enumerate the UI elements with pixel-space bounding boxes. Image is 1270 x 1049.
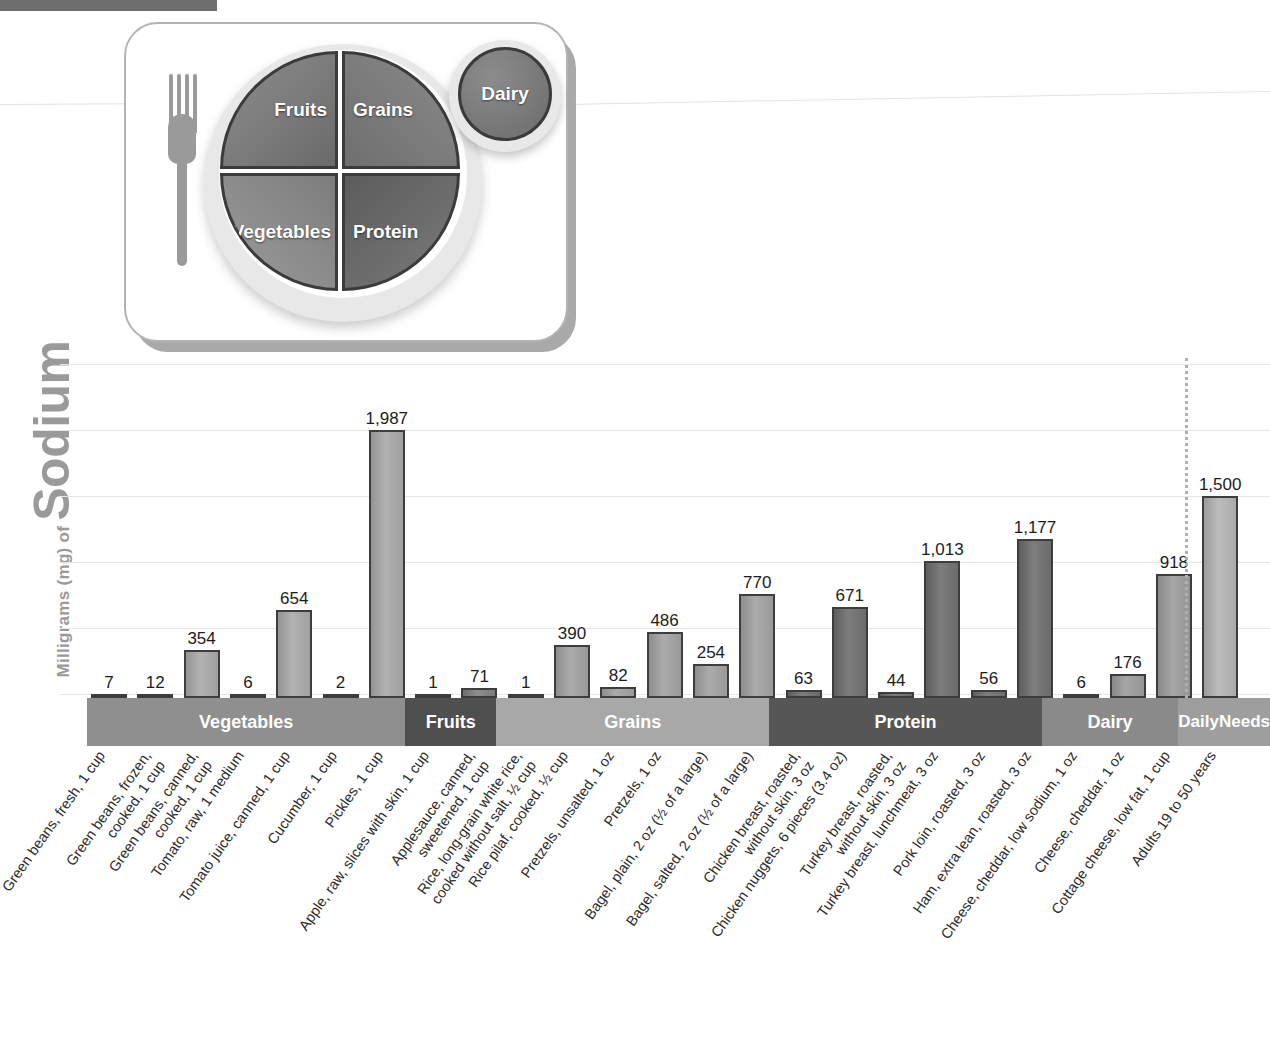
category-band-protein: Protein bbox=[769, 698, 1042, 746]
bar[interactable] bbox=[971, 690, 1007, 698]
category-band-dairy: Dairy bbox=[1042, 698, 1178, 746]
myplate-label-dairy: Dairy bbox=[481, 83, 529, 105]
bar-slot[interactable]: 2 bbox=[319, 674, 363, 698]
bar-value-label: 354 bbox=[187, 630, 215, 647]
bar-value-label: 6 bbox=[243, 674, 252, 691]
bar[interactable] bbox=[647, 632, 683, 698]
category-band-label: Dairy bbox=[1088, 713, 1133, 732]
bar-slot[interactable]: 671 bbox=[828, 587, 872, 698]
category-band-label: Grains bbox=[604, 713, 661, 732]
bar-value-label: 63 bbox=[794, 670, 813, 687]
bar-slot[interactable]: 176 bbox=[1106, 654, 1150, 698]
bar[interactable] bbox=[600, 687, 636, 698]
bar-slot[interactable]: 56 bbox=[967, 670, 1011, 698]
bar-slot[interactable]: 918 bbox=[1152, 554, 1196, 698]
bar[interactable] bbox=[276, 610, 312, 698]
bar-value-label: 1,500 bbox=[1199, 476, 1242, 493]
x-axis-label-line: Cheese, cheddar, 1 oz bbox=[1030, 748, 1127, 877]
bar-slot[interactable]: 1 bbox=[504, 674, 548, 698]
bar-value-label: 56 bbox=[979, 670, 998, 687]
bar[interactable] bbox=[739, 594, 775, 698]
bar-slot[interactable]: 486 bbox=[643, 612, 687, 698]
bar-value-label: 918 bbox=[1160, 554, 1188, 571]
x-axis-label: Cheese, cheddar, 1 oz bbox=[1030, 748, 1127, 877]
sodium-chart-page: Fruits Grains Vegetables Protein Dairy M… bbox=[0, 0, 1270, 1049]
scan-artifact-line-right bbox=[565, 91, 1270, 105]
bar[interactable] bbox=[461, 688, 497, 698]
bar-value-label: 486 bbox=[650, 612, 678, 629]
bar-value-label: 654 bbox=[280, 590, 308, 607]
fork-icon bbox=[165, 74, 199, 266]
bar-value-label: 1,177 bbox=[1014, 519, 1057, 536]
x-axis-label-line: Adults 19 to 50 years bbox=[1128, 748, 1220, 869]
category-band-fruits: Fruits bbox=[405, 698, 496, 746]
bar-slot[interactable]: 654 bbox=[272, 590, 316, 698]
bar-value-label: 390 bbox=[558, 625, 586, 642]
bar-slot[interactable]: 82 bbox=[596, 667, 640, 698]
bar-value-label: 1,987 bbox=[366, 410, 409, 427]
bar-value-label: 254 bbox=[697, 644, 725, 661]
bar[interactable] bbox=[832, 607, 868, 698]
bar-slot[interactable]: 390 bbox=[550, 625, 594, 698]
myplate-label-protein: Protein bbox=[353, 221, 418, 243]
bar-value-label: 71 bbox=[470, 668, 489, 685]
bar-slot[interactable]: 1,987 bbox=[365, 410, 409, 698]
x-axis-label: Adults 19 to 50 years bbox=[1128, 748, 1220, 869]
bar[interactable] bbox=[1202, 496, 1238, 698]
bar-slot[interactable]: 1,013 bbox=[920, 541, 964, 698]
bar[interactable] bbox=[924, 561, 960, 698]
bar-slot[interactable]: 6 bbox=[226, 674, 270, 698]
bars-layer: 712354665421,987171139082486254770636714… bbox=[60, 358, 1270, 698]
bar-value-label: 176 bbox=[1113, 654, 1141, 671]
bar-value-label: 6 bbox=[1077, 674, 1086, 691]
bar-value-label: 82 bbox=[609, 667, 628, 684]
bar-slot[interactable]: 1,500 bbox=[1198, 476, 1242, 698]
bar-value-label: 2 bbox=[336, 674, 345, 691]
bar-value-label: 770 bbox=[743, 574, 771, 591]
bar-slot[interactable]: 1,177 bbox=[1013, 519, 1057, 698]
category-band-grains: Grains bbox=[496, 698, 769, 746]
myplate-label-grains: Grains bbox=[353, 99, 413, 121]
bar-slot[interactable]: 44 bbox=[874, 672, 918, 698]
bar[interactable] bbox=[184, 650, 220, 698]
category-band-label: Fruits bbox=[426, 713, 476, 732]
bar-value-label: 12 bbox=[146, 674, 165, 691]
myplate-label-vegetables: Vegetables bbox=[232, 221, 331, 243]
myplate-graphic: Fruits Grains Vegetables Protein Dairy bbox=[124, 22, 576, 352]
bar[interactable] bbox=[786, 690, 822, 698]
myplate-segment-dairy: Dairy bbox=[458, 47, 552, 141]
bar-slot[interactable]: 71 bbox=[457, 668, 501, 698]
bar-value-label: 1 bbox=[521, 674, 530, 691]
bar-slot[interactable]: 12 bbox=[133, 674, 177, 698]
bar[interactable] bbox=[554, 645, 590, 698]
bar-value-label: 44 bbox=[887, 672, 906, 689]
category-band-label: Vegetables bbox=[199, 713, 293, 732]
bar[interactable] bbox=[693, 664, 729, 698]
plot-area: 712354665421,987171139082486254770636714… bbox=[60, 358, 1270, 698]
bar-slot[interactable]: 1 bbox=[411, 674, 455, 698]
bar-value-label: 671 bbox=[836, 587, 864, 604]
category-band-vegetables: Vegetables bbox=[87, 698, 405, 746]
page-header-strip bbox=[0, 0, 217, 11]
bar-slot[interactable]: 254 bbox=[689, 644, 733, 698]
category-band: VegetablesFruitsGrainsProteinDairyDailyN… bbox=[87, 698, 1270, 746]
x-axis-labels: Green beans, fresh, 1 cupGreen beans, fr… bbox=[0, 748, 1270, 1048]
bar-value-label: 7 bbox=[104, 674, 113, 691]
bar-value-label: 1 bbox=[428, 674, 437, 691]
category-band-label: Protein bbox=[874, 713, 936, 732]
scan-artifact-line-left bbox=[0, 103, 130, 105]
bar[interactable] bbox=[1110, 674, 1146, 698]
category-band-label: Needs bbox=[1219, 713, 1270, 731]
myplate-label-fruits: Fruits bbox=[274, 99, 327, 121]
bar-slot[interactable]: 63 bbox=[782, 670, 826, 698]
bar[interactable] bbox=[1017, 539, 1053, 698]
category-band-label: Daily bbox=[1178, 713, 1219, 731]
bar-slot[interactable]: 7 bbox=[87, 674, 131, 698]
bar[interactable] bbox=[369, 430, 405, 698]
category-band-daily-needs: DailyNeeds bbox=[1178, 698, 1270, 746]
bar-value-label: 1,013 bbox=[921, 541, 964, 558]
bar-slot[interactable]: 6 bbox=[1059, 674, 1103, 698]
bar-slot[interactable]: 354 bbox=[180, 630, 224, 698]
bar-slot[interactable]: 770 bbox=[735, 574, 779, 698]
daily-needs-divider bbox=[1185, 358, 1188, 698]
